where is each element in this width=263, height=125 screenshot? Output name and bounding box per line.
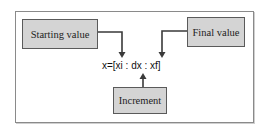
final-arrow-head-icon (159, 52, 166, 58)
increment-arrow-head-icon (140, 73, 147, 79)
final-arrow-line (162, 31, 187, 53)
start-arrow-head-icon (119, 52, 126, 58)
start-arrow-line (98, 32, 122, 53)
connector-arrows (0, 0, 263, 125)
